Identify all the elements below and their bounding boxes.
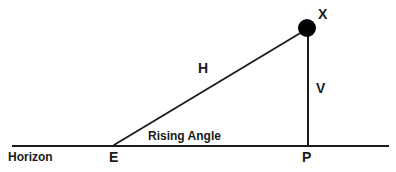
label-rising-angle: Rising Angle bbox=[148, 130, 221, 142]
label-point-p: P bbox=[302, 150, 311, 164]
rising-angle-diagram: X H V Rising Angle Horizon E P bbox=[0, 0, 396, 172]
diagram-canvas bbox=[0, 0, 396, 172]
label-vertical-v: V bbox=[316, 81, 325, 95]
label-point-e: E bbox=[109, 150, 118, 164]
hypotenuse-line bbox=[114, 29, 307, 145]
point-x-marker bbox=[298, 19, 316, 37]
label-point-x: X bbox=[318, 7, 327, 21]
label-horizon: Horizon bbox=[8, 151, 53, 163]
label-hypotenuse-h: H bbox=[198, 61, 208, 75]
